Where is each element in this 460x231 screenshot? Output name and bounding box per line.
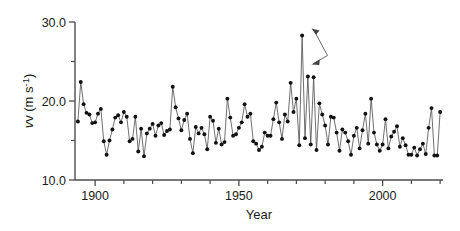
data-point bbox=[320, 112, 324, 116]
x-axis-tick-labels: 190019502000 bbox=[81, 189, 396, 203]
data-point bbox=[389, 135, 393, 139]
data-point bbox=[162, 133, 166, 137]
data-point bbox=[257, 148, 261, 152]
data-point bbox=[312, 75, 316, 79]
data-point bbox=[338, 149, 342, 153]
data-point bbox=[395, 124, 399, 128]
y-tick-label: 20.0 bbox=[42, 95, 66, 109]
data-point bbox=[99, 107, 103, 111]
data-point bbox=[119, 120, 123, 124]
data-point bbox=[343, 131, 347, 135]
data-point bbox=[372, 131, 376, 135]
data-point bbox=[228, 116, 232, 120]
data-point bbox=[185, 112, 189, 116]
data-point bbox=[263, 131, 267, 135]
data-point bbox=[122, 110, 126, 114]
data-point bbox=[386, 146, 390, 150]
data-point bbox=[438, 110, 442, 114]
data-point bbox=[427, 126, 431, 130]
data-point bbox=[223, 140, 227, 144]
data-point bbox=[182, 118, 186, 122]
data-point bbox=[283, 112, 287, 116]
data-series-group bbox=[76, 33, 442, 158]
data-point bbox=[243, 102, 247, 106]
data-point bbox=[366, 142, 370, 146]
y-tick-label: 10.0 bbox=[42, 174, 66, 188]
data-point bbox=[148, 127, 152, 131]
data-point bbox=[154, 134, 158, 138]
data-point bbox=[136, 150, 140, 154]
data-point bbox=[294, 97, 298, 101]
data-point bbox=[246, 115, 250, 119]
data-point bbox=[240, 120, 244, 124]
y-axis-unit-prefix: v (m s bbox=[21, 86, 36, 122]
data-point bbox=[418, 147, 422, 151]
data-point bbox=[303, 136, 307, 140]
svg-text:vv (m s-1): vv (m s-1) bbox=[20, 74, 36, 129]
data-point bbox=[292, 110, 296, 114]
data-point bbox=[352, 134, 356, 138]
data-point bbox=[323, 124, 327, 128]
data-point bbox=[309, 143, 313, 147]
data-point bbox=[171, 85, 175, 89]
data-point bbox=[369, 97, 373, 101]
data-point bbox=[202, 132, 206, 136]
data-point bbox=[225, 97, 229, 101]
data-point bbox=[110, 127, 114, 131]
data-point bbox=[82, 102, 86, 106]
data-point bbox=[237, 126, 241, 130]
data-point bbox=[76, 120, 80, 124]
data-point bbox=[358, 146, 362, 150]
annotation-arrowhead-upper bbox=[312, 29, 320, 35]
data-point bbox=[200, 126, 204, 130]
data-point bbox=[297, 143, 301, 147]
data-point bbox=[384, 117, 388, 121]
data-point bbox=[300, 33, 304, 37]
data-point bbox=[409, 153, 413, 157]
data-point bbox=[254, 142, 258, 146]
data-point bbox=[208, 115, 212, 119]
data-point bbox=[346, 139, 350, 143]
peak-double-arrow bbox=[312, 29, 328, 65]
data-point bbox=[424, 152, 428, 156]
data-point bbox=[205, 147, 209, 151]
data-point bbox=[179, 128, 183, 132]
data-point bbox=[96, 112, 100, 116]
data-point bbox=[421, 142, 425, 146]
data-point bbox=[194, 125, 198, 129]
y-axis-tick-labels: 10.020.030.0 bbox=[42, 16, 66, 188]
data-point bbox=[332, 116, 336, 120]
data-point bbox=[430, 106, 434, 110]
x-axis-title: Year bbox=[246, 207, 273, 222]
data-point bbox=[398, 145, 402, 149]
data-point bbox=[177, 116, 181, 120]
data-point bbox=[151, 122, 155, 126]
data-point bbox=[191, 151, 195, 155]
data-point bbox=[363, 112, 367, 116]
data-point bbox=[87, 112, 91, 116]
data-point bbox=[214, 141, 218, 145]
x-tick-label: 1900 bbox=[81, 189, 109, 203]
data-point bbox=[378, 149, 382, 153]
y-axis-ticks bbox=[69, 22, 75, 180]
data-point bbox=[271, 117, 275, 121]
data-point bbox=[234, 132, 238, 136]
data-point bbox=[197, 131, 201, 135]
x-tick-label: 2000 bbox=[369, 189, 397, 203]
data-point bbox=[306, 75, 310, 79]
data-point bbox=[381, 143, 385, 147]
data-point bbox=[248, 112, 252, 116]
y-axis-unit-exponent: -1 bbox=[20, 78, 31, 86]
x-tick-label: 1950 bbox=[225, 189, 253, 203]
data-point bbox=[79, 80, 83, 84]
x-axis-group: 190019502000 Year bbox=[75, 180, 443, 222]
data-point bbox=[401, 136, 405, 140]
data-point bbox=[174, 105, 178, 109]
data-point bbox=[415, 154, 419, 158]
data-point bbox=[340, 127, 344, 131]
data-point bbox=[168, 127, 172, 131]
annotation-arrowhead-lower bbox=[312, 60, 320, 65]
data-point bbox=[392, 130, 396, 134]
data-point bbox=[188, 137, 192, 141]
data-point bbox=[412, 146, 416, 150]
